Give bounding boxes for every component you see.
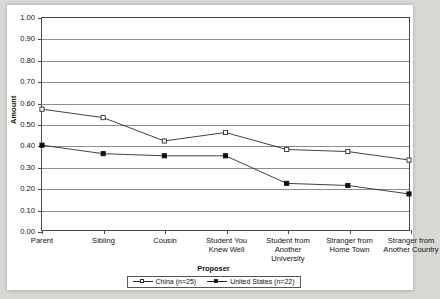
- y-axis-tick-label: 0.30: [20, 164, 35, 172]
- y-axis-tick-label: 0.60: [20, 100, 35, 108]
- x-axis-tick-label: Parent: [13, 237, 71, 246]
- x-axis-tick: [411, 230, 412, 234]
- x-axis-tick-label: Stranger from Another Country: [382, 237, 440, 255]
- y-axis-tick-label: 1.00: [20, 14, 35, 22]
- legend-label: United States (n=22): [230, 278, 294, 285]
- x-axis-tick-label: Student from Another University: [259, 237, 317, 264]
- plot-area: 0.000.100.200.300.400.500.600.700.800.90…: [41, 17, 410, 231]
- y-axis-tick-label: 0.20: [20, 185, 35, 193]
- x-axis-tick: [350, 230, 351, 234]
- x-axis-tick: [288, 230, 289, 234]
- series-plot: [42, 18, 409, 230]
- y-axis-tick-label: 0.00: [20, 228, 35, 236]
- data-point-marker: [162, 139, 166, 143]
- y-axis-title: Amount: [9, 95, 18, 124]
- data-point-marker: [407, 192, 411, 196]
- data-point-marker: [285, 147, 289, 151]
- chart-legend: China (n=25)United States (n=22): [126, 276, 300, 288]
- x-axis-tick: [42, 230, 43, 234]
- data-point-marker: [346, 149, 350, 153]
- data-point-marker: [223, 130, 227, 134]
- data-point-marker: [407, 158, 411, 162]
- data-point-marker: [40, 107, 44, 111]
- x-axis-tick-label: Student You Knew Well: [198, 237, 256, 255]
- data-point-marker: [101, 116, 105, 120]
- legend-entry: China (n=25): [132, 278, 196, 285]
- x-axis-title: Proposer: [0, 264, 427, 273]
- y-axis-tick-label: 0.90: [20, 36, 35, 44]
- legend-entry: United States (n=22): [207, 278, 294, 285]
- y-axis-tick-label: 0.50: [20, 121, 35, 129]
- legend-marker-icon: [132, 278, 152, 285]
- x-axis-tick: [227, 230, 228, 234]
- data-point-marker: [346, 183, 350, 187]
- x-axis-tick-label: Stranger from Home Town: [321, 237, 379, 255]
- data-point-marker: [101, 152, 105, 156]
- legend-marker-icon: [207, 278, 227, 285]
- x-axis-tick: [104, 230, 105, 234]
- x-axis-tick-label: Cousin: [136, 237, 194, 246]
- legend-label: China (n=25): [155, 278, 196, 285]
- data-point-marker: [223, 154, 227, 158]
- data-point-marker: [162, 154, 166, 158]
- data-point-marker: [285, 181, 289, 185]
- x-axis-tick-label: Sibling: [75, 237, 133, 246]
- y-axis-tick-label: 0.70: [20, 78, 35, 86]
- data-point-marker: [40, 143, 44, 147]
- y-axis-tick-label: 0.10: [20, 207, 35, 215]
- y-axis-tick-label: 0.40: [20, 143, 35, 151]
- x-axis-tick: [165, 230, 166, 234]
- y-axis-tick-label: 0.80: [20, 57, 35, 65]
